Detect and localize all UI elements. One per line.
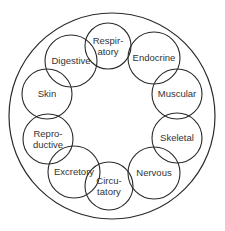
nervous-label: Nervous — [136, 167, 172, 178]
body-systems-diagram: Respir-atoryEndocrineMuscularSkeletalNer… — [0, 0, 225, 231]
skeletal-label: Skeletal — [160, 132, 194, 143]
system-node-muscular: Muscular — [152, 69, 202, 119]
system-node-nervous: Nervous — [128, 147, 180, 199]
reproductive-label: Repro- — [33, 128, 62, 139]
digestive-label: Digestive — [51, 55, 90, 66]
skin-label: Skin — [38, 88, 56, 99]
system-node-skin: Skin — [22, 69, 72, 119]
system-node-endocrine: Endocrine — [128, 32, 180, 84]
system-node-reproductive: Repro-ductive — [23, 114, 73, 164]
respiratory-label: atory — [97, 46, 118, 57]
system-node-excretory: Excretory — [48, 146, 100, 198]
system-node-digestive: Digestive — [45, 35, 97, 87]
circulatory-label: tatory — [97, 186, 121, 197]
system-node-skeletal: Skeletal — [152, 113, 202, 163]
excretory-label: Excretory — [54, 166, 94, 177]
reproductive-label: ductive — [33, 139, 63, 150]
endocrine-label: Endocrine — [133, 52, 176, 63]
respiratory-label: Respir- — [93, 35, 124, 46]
system-nodes: Respir-atoryEndocrineMuscularSkeletalNer… — [22, 23, 202, 210]
muscular-label: Muscular — [158, 88, 197, 99]
